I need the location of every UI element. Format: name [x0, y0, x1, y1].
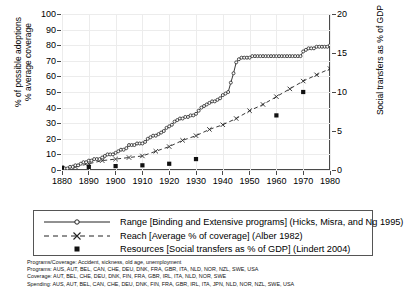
data-point-range [235, 61, 238, 64]
tick-mark [169, 171, 170, 175]
y-axis-left-tick-label: 60 [32, 72, 56, 81]
y-axis-right-tick-label: 20 [337, 10, 361, 19]
y-axis-right-tick-label: 5 [337, 127, 361, 136]
series-layer [62, 14, 330, 170]
tick-mark [57, 123, 61, 124]
data-point-reach [167, 144, 171, 148]
legend-label-reach: Reach [Average % of coverage] (Alber 198… [120, 230, 303, 242]
tick-mark [332, 14, 336, 15]
data-point-reach [247, 109, 251, 113]
tick-mark [303, 171, 304, 175]
data-point-resources [140, 163, 144, 167]
data-point-range [125, 147, 128, 150]
data-point-resources [114, 164, 118, 168]
data-point-reach [314, 73, 318, 77]
y-axis-left-label: % of possible adoptions % average covera… [13, 0, 33, 127]
tick-mark [332, 92, 336, 93]
data-point-range [219, 97, 222, 100]
series-resources [62, 14, 330, 170]
data-point-range [197, 109, 200, 112]
data-point-reach [154, 149, 158, 153]
data-point-range [299, 55, 302, 58]
tick-mark [115, 171, 116, 175]
tick-mark [332, 170, 336, 171]
data-point-range [229, 81, 232, 84]
plot-area: % of possible adoptions % average covera… [0, 0, 405, 205]
legend-key-reach [42, 229, 112, 243]
data-point-range [329, 44, 331, 47]
data-point-resources [274, 113, 278, 117]
y-axis-left-tick-label: 90 [32, 26, 56, 35]
y-axis-left-tick-label: 20 [32, 135, 56, 144]
y-axis-left-tick-label: 40 [32, 104, 56, 113]
legend-key-range [42, 215, 112, 229]
data-point-range [162, 130, 165, 133]
tick-mark [57, 76, 61, 77]
tick-mark [57, 154, 61, 155]
data-point-reach [180, 138, 184, 142]
y-axis-left-tick-label: 0 [32, 166, 56, 175]
tick-mark [330, 171, 331, 175]
data-point-resources [87, 165, 91, 169]
data-point-range [144, 140, 147, 143]
y-axis-left-tick-label: 50 [32, 88, 56, 97]
tick-mark [142, 171, 143, 175]
gridline-vertical [330, 14, 331, 170]
data-point-range [232, 72, 235, 75]
y-axis-left-tick-label: 100 [32, 10, 56, 19]
tick-mark [57, 92, 61, 93]
data-point-reach [234, 116, 238, 120]
y-axis-left-tick-label: 70 [32, 57, 56, 66]
y-axis-right-tick-label: 0 [337, 166, 361, 175]
legend-item-resources[interactable]: Resources [Social transfers as % of GDP]… [34, 242, 372, 256]
legend-label-range: Range [Binding and Extensive programs] (… [120, 216, 403, 228]
tick-mark [276, 171, 277, 175]
data-point-resources [167, 162, 171, 166]
footnote-line-2: Programs: AUS, AUT, BEL, CAN, CHE, DEU, … [27, 266, 294, 273]
data-point-reach [261, 102, 265, 106]
tick-mark [57, 30, 61, 31]
data-point-resources [301, 90, 305, 94]
y-axis-right-tick-label: 15 [337, 49, 361, 58]
footnote-line-1: Programs/Coverage: Accident, sickness, o… [27, 259, 294, 266]
legend-key-resources [42, 242, 112, 256]
y-axis-left-tick-label: 30 [32, 119, 56, 128]
chart-figure: % of possible adoptions % average covera… [0, 0, 405, 300]
footnote-line-4: Spending: AUS, AUT, BEL, CAN, CHE, DEU, … [27, 281, 294, 288]
data-point-resources [62, 166, 64, 170]
y-axis-right-label: Social transfers as % of GDP [375, 0, 385, 125]
data-point-reach [288, 87, 292, 91]
data-point-range [227, 91, 230, 94]
legend-item-range[interactable]: Range [Binding and Extensive programs] (… [34, 215, 372, 229]
tick-mark [57, 45, 61, 46]
tick-mark [222, 171, 223, 175]
data-point-range [195, 112, 198, 115]
y-axis-left-tick-label: 80 [32, 41, 56, 50]
tick-mark [57, 170, 61, 171]
y-axis-right-tick-label: 10 [337, 88, 361, 97]
tick-mark [57, 139, 61, 140]
tick-mark [57, 14, 61, 15]
y-axis-left-label-line1: % of possible adoptions [13, 0, 23, 127]
legend-item-reach[interactable]: Reach [Average % of coverage] (Alber 198… [34, 229, 372, 243]
tick-mark [196, 171, 197, 175]
y-axis-left-tick-label: 10 [32, 150, 56, 159]
tick-mark [249, 171, 250, 175]
data-point-reach [221, 123, 225, 127]
data-point-reach [274, 94, 278, 98]
tick-mark [332, 53, 336, 54]
tick-mark [88, 171, 89, 175]
tick-mark [62, 171, 63, 175]
series-reach [62, 66, 330, 170]
footnotes: Programs/Coverage: Accident, sickness, o… [27, 259, 294, 288]
tick-mark [57, 108, 61, 109]
x-axis-tick-label: 1980 [310, 177, 350, 186]
footnote-line-3: Coverage: AUT, BEL, CHE, DEU, DNK, FIN, … [27, 273, 294, 280]
data-point-resources [194, 157, 198, 161]
data-point-reach [301, 79, 305, 83]
tick-mark [332, 131, 336, 132]
data-point-reach [194, 133, 198, 137]
data-point-reach [328, 66, 330, 70]
legend-box: Range [Binding and Extensive programs] (… [33, 210, 373, 256]
tick-mark [57, 61, 61, 62]
